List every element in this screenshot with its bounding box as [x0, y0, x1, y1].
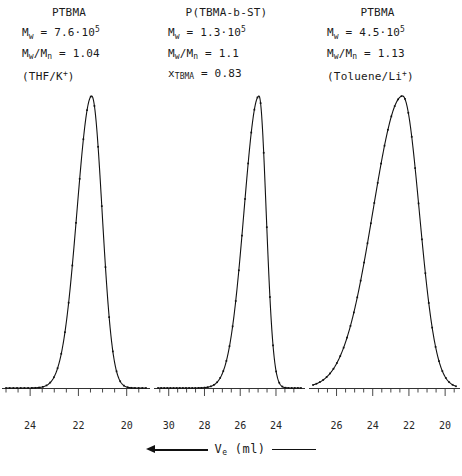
plot-area: [307, 88, 462, 418]
data-point-marker: [278, 382, 280, 384]
panel-row: PTBMA Mw = 7.6·105 Mw/Mn = 1.04 (THF/K+): [0, 0, 462, 440]
data-point-marker: [404, 98, 406, 100]
fraction-symbol: x: [168, 67, 175, 80]
data-point-marker: [282, 386, 284, 388]
data-point-marker: [101, 205, 103, 207]
data-point-marker: [266, 226, 268, 228]
data-point-marker: [339, 355, 341, 357]
data-point-marker: [170, 387, 172, 389]
minor-ticks: [6, 389, 139, 396]
data-point-marker: [269, 296, 271, 298]
data-point-marker: [229, 345, 231, 347]
data-point-marker: [68, 302, 70, 304]
chromatogram-curve: [313, 96, 456, 386]
pdi-numerator: M: [327, 47, 334, 60]
data-point-marker: [24, 387, 26, 389]
data-point-marker: [319, 381, 321, 383]
data-point-marker: [384, 145, 386, 147]
ve-units: (ml): [235, 442, 266, 456]
pdi-line: Mw/Mn = 1.13: [307, 45, 462, 65]
data-point-marker: [141, 387, 143, 389]
arrow-left-icon: [146, 445, 208, 455]
data-point-marker: [232, 326, 234, 328]
data-point-marker: [275, 371, 277, 373]
data-point-marker: [31, 387, 33, 389]
mw-equals: =: [186, 26, 193, 39]
chart-panel-ptbma-thf-k: PTBMA Mw = 7.6·105 Mw/Mn = 1.04 (THF/K+): [0, 0, 152, 440]
data-point-marker: [86, 109, 88, 111]
data-point-marker: [204, 387, 206, 389]
data-point-marker: [185, 387, 187, 389]
curve-svg: [307, 88, 462, 418]
data-point-marker: [387, 129, 389, 131]
data-point-marker: [94, 105, 96, 107]
mw-symbol: M: [22, 26, 29, 39]
x-tick-label: 26: [331, 420, 343, 431]
data-point-marker: [333, 368, 335, 370]
data-point-marker: [5, 387, 7, 389]
x-tick-label: 28: [198, 420, 210, 431]
curve-svg: [0, 88, 152, 418]
data-point-marker: [42, 386, 44, 388]
data-point-marker: [53, 376, 55, 378]
pdi-numerator: M: [168, 47, 175, 60]
data-point-marker: [407, 112, 409, 114]
mw-symbol: M: [327, 26, 334, 39]
data-point-marker: [35, 387, 37, 389]
data-point-marker: [179, 387, 181, 389]
x-tick-label-group: 26242220: [307, 420, 462, 436]
data-point-marker: [13, 387, 15, 389]
data-point-marker: [134, 387, 136, 389]
pdi-equals: =: [205, 47, 212, 60]
chromatogram-curve: [6, 96, 146, 388]
data-point-marker: [394, 105, 396, 107]
solvent-text: (Toluene/Li: [327, 70, 402, 83]
mw-value: 1.3·10: [200, 26, 241, 39]
data-point-marker: [336, 362, 338, 364]
pdi-equals: =: [59, 47, 66, 60]
solvent-line: (THF/K+): [0, 65, 152, 85]
data-point-marker: [425, 272, 427, 274]
pdi-value: 1.04: [73, 47, 100, 60]
data-point-marker: [112, 351, 114, 353]
data-point-marker: [241, 235, 243, 237]
pdi-denominator-subscript: n: [47, 52, 52, 61]
data-point-marker: [60, 353, 62, 355]
pdi-denominator: /M: [34, 47, 48, 60]
data-point-marker: [390, 116, 392, 118]
data-point-marker: [448, 381, 450, 383]
mw-equals: =: [40, 26, 47, 39]
data-point-marker: [363, 262, 365, 264]
solvent-text: (THF/K: [22, 70, 63, 83]
data-point-marker: [116, 370, 118, 372]
mole-fraction-line: xTBMA = 0.83: [152, 65, 307, 85]
data-point-marker: [254, 109, 256, 111]
chart-panel-tbma-b-st: P(TBMA-b-ST) Mw = 1.3·105 Mw/Mn = 1.1 xT…: [152, 0, 307, 440]
data-point-marker: [322, 379, 324, 381]
data-point-marker: [257, 97, 259, 99]
data-point-marker: [57, 367, 59, 369]
data-point-marker: [397, 98, 399, 100]
data-point-marker: [247, 163, 249, 165]
data-point-marker: [360, 280, 362, 282]
data-point-marker: [97, 146, 99, 148]
data-point-marker: [373, 202, 375, 204]
x-tick-label-group: 242220: [0, 420, 152, 436]
data-point-marker: [173, 387, 175, 389]
x-tick-label: 24: [24, 420, 36, 431]
data-point-marker: [79, 178, 81, 180]
data-point-marker: [188, 387, 190, 389]
data-point-markers: [5, 96, 147, 389]
solvent-paren-close: ): [407, 70, 414, 83]
data-point-marker: [316, 383, 318, 385]
pdi-numerator: M: [22, 47, 29, 60]
data-point-marker: [157, 387, 159, 389]
data-point-marker: [250, 132, 252, 134]
data-point-marker: [194, 387, 196, 389]
data-point-marker: [90, 96, 92, 98]
pdi-denominator-subscript: n: [352, 52, 357, 61]
x-axis-variable: Ve (ml): [214, 442, 265, 457]
pdi-denominator-subscript: n: [193, 52, 198, 61]
pdi-denominator: /M: [180, 47, 194, 60]
data-point-marker: [428, 302, 430, 304]
